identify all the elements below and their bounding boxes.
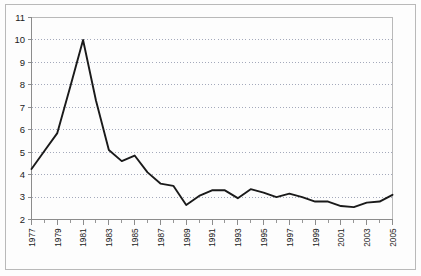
x-axis-tick-label: 1995	[260, 228, 269, 247]
x-axis-labels-group: 1977197919811983198519871989199119931995…	[28, 228, 398, 247]
chart-svg: 234567891011 197719791981198319851987198…	[0, 0, 421, 276]
data-line-series-1	[32, 40, 393, 207]
y-axis-tick-label: 10	[14, 34, 25, 45]
chart-page: 234567891011 197719791981198319851987198…	[0, 0, 421, 276]
y-axis-tick-label: 3	[20, 191, 25, 202]
y-axis-labels-group: 234567891011	[14, 12, 25, 225]
x-axis-minor-ticks-group	[32, 220, 393, 225]
y-axis-tick-label: 9	[20, 57, 25, 68]
line-chart: 234567891011 197719791981198319851987198…	[0, 0, 421, 276]
gridlines-group	[32, 40, 393, 197]
x-axis-tick-label: 2003	[363, 228, 372, 247]
x-axis-tick-label: 1985	[131, 228, 140, 247]
y-axis-tick-label: 2	[20, 214, 25, 225]
y-axis-tick-label: 4	[20, 169, 25, 180]
data-line-group	[32, 40, 393, 207]
x-axis-tick-label: 1987	[157, 228, 166, 247]
x-axis-tick-label: 1979	[54, 228, 63, 247]
x-axis-tick-label: 2001	[337, 228, 346, 247]
x-axis-tick-label: 1991	[208, 228, 217, 247]
x-axis-tick-label: 1977	[28, 228, 37, 247]
x-axis-tick-label: 1981	[79, 228, 88, 247]
y-axis-tick-label: 6	[20, 124, 25, 135]
x-axis-tick-label: 1997	[286, 228, 295, 247]
y-axis-tick-label: 5	[20, 147, 25, 158]
x-axis-tick-label: 1993	[234, 228, 243, 247]
x-axis-tick-label: 1983	[105, 228, 114, 247]
y-axis-tick-label: 8	[20, 79, 25, 90]
y-axis-tick-label: 7	[20, 102, 25, 113]
x-axis-tick-label: 1989	[183, 228, 192, 247]
y-axis-tick-label: 11	[15, 12, 25, 23]
x-axis-tick-label: 2005	[389, 228, 398, 247]
x-axis-tick-label: 1999	[312, 228, 321, 247]
